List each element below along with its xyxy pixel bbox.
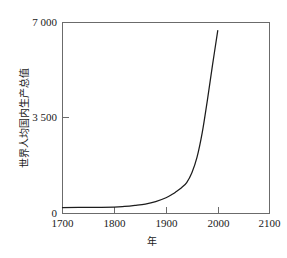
- y-tick-label-3500: 3 500: [32, 111, 57, 123]
- x-tick-label-2000: 2000: [208, 217, 231, 229]
- y-axis-title: 世界人均国内生产总值: [18, 68, 30, 168]
- x-axis-title: 年: [147, 235, 157, 247]
- x-tick-label-2100: 2100: [259, 217, 282, 229]
- gdp-per-capita-line-chart: 7 000 3 500 0 1700 1800 1900 2000 2100 年…: [0, 0, 287, 258]
- y-tick-label-7000: 7 000: [32, 16, 57, 28]
- x-tick-label-1700: 1700: [52, 217, 75, 229]
- x-tick-label-1900: 1900: [156, 217, 179, 229]
- plot-frame: [63, 23, 270, 214]
- chart-container: 7 000 3 500 0 1700 1800 1900 2000 2100 年…: [0, 0, 287, 258]
- gdp-curve: [63, 31, 218, 208]
- x-tick-label-1800: 1800: [104, 217, 127, 229]
